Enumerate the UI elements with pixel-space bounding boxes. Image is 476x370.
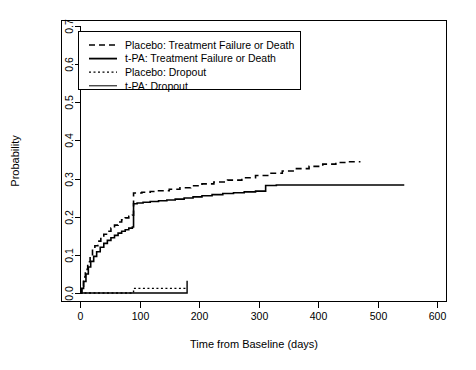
y-tick-label: 0.4	[63, 133, 75, 148]
legend-label: t-PA: Treatment Failure or Death	[125, 52, 276, 64]
chart-legend: Placebo: Treatment Failure or Deatht-PA:…	[79, 32, 301, 92]
legend-label: Placebo: Treatment Failure or Death	[125, 39, 294, 51]
y-tick-label: 0.1	[63, 248, 75, 263]
x-tick-label: 600	[429, 310, 447, 322]
x-tick-label: 0	[78, 310, 84, 322]
y-tick-label: 0.3	[63, 172, 75, 187]
legend-label: t-PA: Dropout	[125, 80, 188, 92]
y-axis-title: Probability	[9, 135, 21, 187]
x-tick-label: 500	[370, 310, 388, 322]
x-tick-label: 300	[251, 310, 269, 322]
y-tick-label: 0.7	[63, 19, 75, 34]
y-axis: 0.00.10.20.30.40.50.60.7	[63, 19, 81, 301]
survival-curve-plot: 0100200300400500600 0.00.10.20.30.40.50.…	[0, 0, 476, 370]
series-tpa_failure	[80, 185, 404, 293]
y-tick-label: 0.0	[63, 286, 75, 301]
x-tick-label: 400	[310, 310, 328, 322]
x-tick-label: 200	[191, 310, 209, 322]
chart-figure: 0100200300400500600 0.00.10.20.30.40.50.…	[0, 0, 476, 370]
y-tick-label: 0.5	[63, 95, 75, 110]
x-axis: 0100200300400500600	[78, 302, 447, 323]
series-placebo_failure	[80, 161, 360, 293]
data-series-layer	[80, 161, 404, 293]
y-tick-label: 0.2	[63, 210, 75, 225]
x-tick-label: 100	[132, 310, 150, 322]
x-axis-title: Time from Baseline (days)	[190, 338, 318, 350]
y-tick-label: 0.6	[63, 57, 75, 72]
legend-label: Placebo: Dropout	[125, 66, 206, 78]
